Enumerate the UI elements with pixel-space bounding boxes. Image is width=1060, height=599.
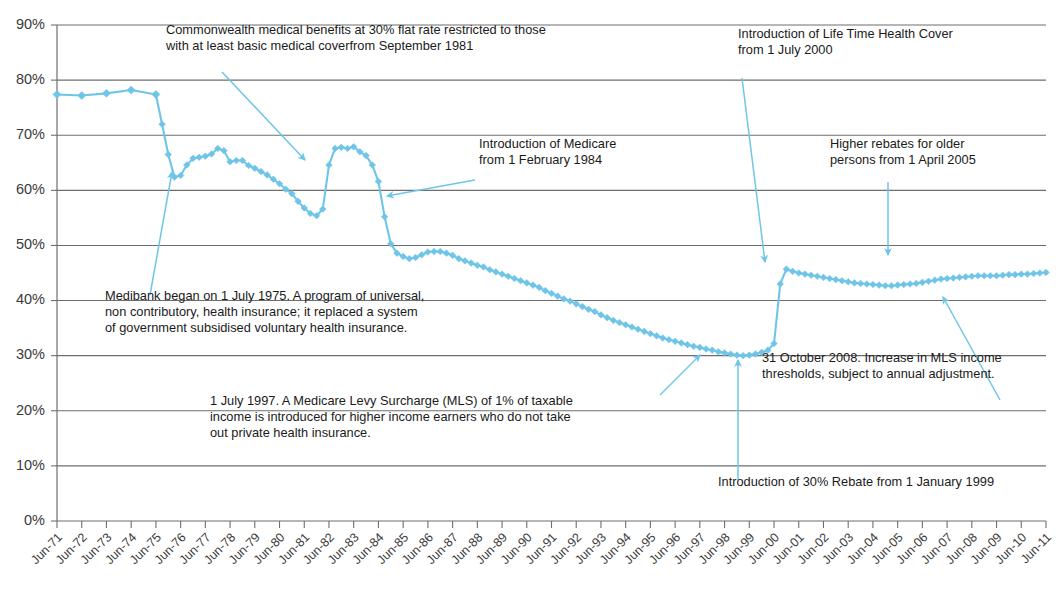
data-point-marker bbox=[468, 260, 475, 267]
data-point-marker bbox=[981, 272, 988, 279]
data-point-marker bbox=[635, 326, 642, 333]
annotation-text-line: 1 July 1997. A Medicare Levy Surcharge (… bbox=[210, 393, 573, 408]
data-point-marker bbox=[418, 252, 425, 259]
annotation-text-line: from 1 February 1984 bbox=[479, 152, 602, 167]
data-point-marker bbox=[727, 351, 734, 358]
data-point-marker bbox=[931, 277, 938, 284]
data-point-marker bbox=[53, 90, 61, 98]
data-point-marker bbox=[653, 333, 660, 340]
data-point-marker bbox=[1006, 271, 1013, 278]
data-point-marker bbox=[1043, 269, 1050, 276]
data-point-marker bbox=[505, 273, 512, 280]
data-point-marker bbox=[647, 330, 654, 337]
data-point-marker bbox=[925, 278, 932, 285]
data-point-marker bbox=[554, 293, 561, 300]
y-axis-tick-label: 90% bbox=[16, 16, 45, 32]
data-point-marker bbox=[462, 258, 469, 265]
data-point-marker bbox=[486, 266, 493, 273]
annotation-higher-rebates-older-persons: Higher rebates for olderpersons from 1 A… bbox=[830, 136, 976, 255]
data-point-marker bbox=[734, 352, 741, 359]
data-point-marker bbox=[165, 151, 172, 158]
data-point-marker bbox=[517, 277, 524, 284]
data-point-marker bbox=[425, 249, 432, 256]
data-point-marker bbox=[344, 145, 351, 152]
data-point-marker bbox=[777, 281, 784, 288]
annotation-text-line: Introduction of Medicare bbox=[479, 136, 616, 151]
annotation-text-line: of government subsidised voluntary healt… bbox=[105, 320, 407, 335]
annotation-arrow bbox=[222, 72, 305, 160]
data-point-marker bbox=[1030, 270, 1037, 277]
data-point-marker bbox=[523, 280, 530, 287]
annotation-text-line: income is introduced for higher income e… bbox=[210, 409, 571, 424]
annotation-medicare-levy-surcharge: 1 July 1997. A Medicare Levy Surcharge (… bbox=[210, 355, 700, 440]
data-point-marker bbox=[962, 274, 969, 281]
data-point-marker bbox=[715, 349, 722, 356]
data-point-marker bbox=[616, 319, 623, 326]
data-point-marker bbox=[863, 281, 870, 288]
y-axis-labels-group: 0%10%20%30%40%50%60%70%80%90% bbox=[16, 16, 45, 528]
annotation-medibank-began: Medibank began on 1 July 1975. A program… bbox=[105, 172, 424, 335]
data-point-marker bbox=[907, 281, 914, 288]
data-point-marker bbox=[783, 266, 790, 273]
annotation-text-line: Medibank began on 1 July 1975. A program… bbox=[105, 288, 424, 303]
y-axis-tick-label: 80% bbox=[16, 71, 45, 87]
annotation-text-line: 31 October 2008. Increase in MLS income bbox=[762, 350, 1002, 365]
data-point-marker bbox=[585, 306, 592, 313]
private-health-insurance-coverage-chart: 0%10%20%30%40%50%60%70%80%90% Jun-71Jun-… bbox=[0, 0, 1060, 599]
annotation-arrow bbox=[742, 78, 765, 262]
y-axis-tick-label: 0% bbox=[24, 512, 45, 528]
data-point-marker bbox=[499, 271, 506, 278]
y-axis-tick-label: 50% bbox=[16, 236, 45, 252]
annotation-text-line: Commonwealth medical benefits at 30% fla… bbox=[166, 22, 546, 37]
data-point-marker bbox=[795, 270, 802, 277]
data-point-marker bbox=[1018, 271, 1025, 278]
data-point-marker bbox=[233, 157, 240, 164]
data-point-marker bbox=[332, 145, 339, 152]
data-point-marker bbox=[480, 264, 487, 271]
data-point-marker bbox=[833, 276, 840, 283]
data-point-marker bbox=[406, 255, 413, 262]
data-point-marker bbox=[381, 213, 388, 220]
annotation-text-line: Introduction of Life Time Health Cover bbox=[738, 26, 954, 41]
y-axis-tick-label: 60% bbox=[16, 181, 45, 197]
annotation-arrow bbox=[387, 180, 475, 196]
annotation-introduction-of-medicare: Introduction of Medicarefrom 1 February … bbox=[387, 136, 616, 196]
annotation-text-line: thresholds, subject to annual adjustment… bbox=[762, 366, 995, 381]
data-point-marker bbox=[697, 344, 704, 351]
data-point-marker bbox=[999, 272, 1006, 279]
data-point-marker bbox=[196, 154, 203, 161]
data-point-marker bbox=[709, 347, 716, 354]
data-point-marker bbox=[530, 282, 537, 289]
data-point-marker bbox=[338, 144, 345, 151]
data-point-marker bbox=[944, 275, 951, 282]
data-point-marker bbox=[659, 335, 666, 342]
y-axis-tick-label: 10% bbox=[16, 457, 45, 473]
data-point-marker bbox=[826, 275, 833, 282]
data-point-marker bbox=[511, 275, 518, 282]
data-point-marker bbox=[622, 322, 629, 329]
annotation-text-line: non contributory, health insurance; it r… bbox=[105, 304, 418, 319]
data-point-marker bbox=[993, 272, 1000, 279]
data-point-marker bbox=[839, 277, 846, 284]
data-point-marker bbox=[690, 343, 697, 350]
data-point-marker bbox=[437, 248, 444, 255]
data-point-marker bbox=[474, 262, 481, 269]
data-point-marker bbox=[938, 276, 945, 283]
data-point-marker bbox=[808, 272, 815, 279]
data-point-marker bbox=[579, 303, 586, 310]
annotation-text-line: with at least basic medical coverfrom Se… bbox=[165, 38, 473, 53]
data-point-marker bbox=[152, 90, 160, 98]
data-point-marker bbox=[610, 317, 617, 324]
y-axis-tick-label: 40% bbox=[16, 291, 45, 307]
data-point-marker bbox=[1012, 271, 1019, 278]
data-point-marker bbox=[746, 352, 753, 359]
annotation-text-line: out private health insurance. bbox=[210, 425, 371, 440]
annotation-text-line: Introduction of 30% Rebate from 1 Januar… bbox=[718, 474, 994, 489]
data-point-marker bbox=[493, 269, 500, 276]
data-point-marker bbox=[913, 280, 920, 287]
data-point-marker bbox=[202, 153, 209, 160]
annotation-arrow bbox=[660, 355, 700, 395]
y-axis-tick-label: 70% bbox=[16, 126, 45, 142]
annotation-arrow bbox=[943, 297, 1000, 400]
data-point-marker bbox=[919, 279, 926, 286]
